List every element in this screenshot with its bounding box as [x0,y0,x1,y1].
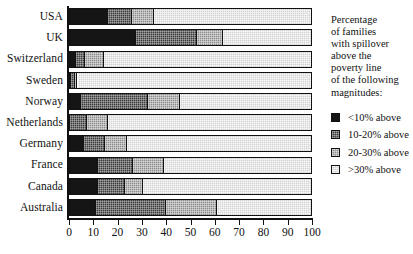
bar-row [69,29,312,46]
bar-segment [127,135,312,152]
bar-segment [217,199,312,216]
legend-item[interactable]: <10% above [331,110,413,125]
x-axis-tick-label: 20 [105,226,131,238]
x-axis-tick [288,220,289,225]
x-axis-tick [263,220,264,225]
legend-item-label: <10% above [348,112,401,123]
legend-title: Percentageof familieswith spilloverabove… [331,14,413,99]
bar-segment [98,157,133,174]
bar-segment [133,157,163,174]
bar-segment [154,8,312,25]
bar-row [69,114,312,131]
bar-segment [166,199,217,216]
x-axis-tick [118,220,119,225]
legend-item-label: >30% above [348,164,401,175]
bar-row [69,93,312,110]
x-axis-tick [312,220,313,225]
stacked-bar-chart: USAUKSwitzerlandSwedenNorwayNetherlandsG… [0,0,413,254]
bar-row [69,8,312,25]
bar-segment [132,8,154,25]
bar-segment [69,51,76,68]
legend-title-line: with spillover [331,38,413,50]
x-axis-tick-label: 90 [275,226,301,238]
bar-segment [87,114,108,131]
bar-row [69,199,312,216]
bar-segment [69,157,98,174]
bar-segment [69,199,96,216]
x-axis-tick [93,220,94,225]
legend-swatch-icon [331,165,340,174]
y-axis-label: USA [40,6,63,27]
x-axis-tick [69,220,70,225]
bar-segment [85,51,104,68]
bar-segment [105,135,127,152]
bar-segment [98,178,125,195]
bar-row [69,135,312,152]
bar-segment [136,29,197,46]
x-axis-tick-label: 70 [226,226,252,238]
x-axis-tick [191,220,192,225]
bar-segment [108,8,132,25]
bar-segment [180,93,312,110]
legend-title-line: poverty line [331,62,413,74]
x-axis-tick [166,220,167,225]
x-axis-tick-label: 80 [250,226,276,238]
legend-item[interactable]: 10-20% above [331,127,413,142]
y-axis-label: Germany [20,133,64,154]
x-axis-tick-label: 50 [178,226,204,238]
x-axis-tick [239,220,240,225]
legend: Percentageof familieswith spilloverabove… [331,14,413,180]
y-axis-label: Canada [28,176,63,197]
legend-title-line: Percentage [331,14,413,26]
bar-segment [69,8,108,25]
bar-segment [81,93,148,110]
y-axis-label: Switzerland [7,48,63,69]
bar-segment [108,114,312,131]
x-axis-tick-label: 60 [202,226,228,238]
legend-item-label: 10-20% above [348,129,409,140]
bar-row [69,72,312,89]
bar-row [69,157,312,174]
bar-segment [223,29,312,46]
legend-item[interactable]: 20-30% above [331,145,413,160]
bar-row [69,178,312,195]
bar-segment [96,199,166,216]
bar-segment [78,72,312,89]
y-axis-label: Norway [25,91,63,112]
legend-swatch-icon [331,130,340,139]
bar-segment [69,178,98,195]
x-axis-tick-label: 30 [129,226,155,238]
x-axis-tick [142,220,143,225]
bar-segment [125,178,143,195]
legend-title-line: of the following [331,74,413,86]
y-axis-label: Netherlands [6,112,63,133]
legend-title-line: magnitudes: [331,87,413,99]
bar-segment [197,29,224,46]
y-axis-label: Australia [20,197,63,218]
bar-segment [69,29,136,46]
bar-segment [164,157,312,174]
x-axis-tick-label: 40 [153,226,179,238]
x-axis-tick-label: 100 [299,226,325,238]
y-axis-label: UK [46,27,63,48]
bar-segment [69,93,81,110]
y-axis-category-labels: USAUKSwitzerlandSwedenNorwayNetherlandsG… [0,6,66,218]
plot-area [69,6,312,218]
x-axis-tick [215,220,216,225]
bar-segment [148,93,180,110]
y-axis-label: France [31,154,63,175]
legend-swatch-icon [331,148,340,157]
legend-swatch-icon [331,113,340,122]
legend-items: <10% above10-20% above20-30% above>30% a… [331,110,413,178]
bar-segment [69,135,84,152]
legend-item[interactable]: >30% above [331,162,413,177]
bar-segment [70,114,87,131]
legend-title-line: of families [331,26,413,38]
legend-title-line: above the [331,50,413,62]
x-axis-tick-label: 10 [80,226,106,238]
bar-segment [104,51,312,68]
bar-segment [76,51,85,68]
bar-segment [84,135,106,152]
legend-item-label: 20-30% above [348,147,409,158]
y-axis-label: Sweden [26,70,63,91]
